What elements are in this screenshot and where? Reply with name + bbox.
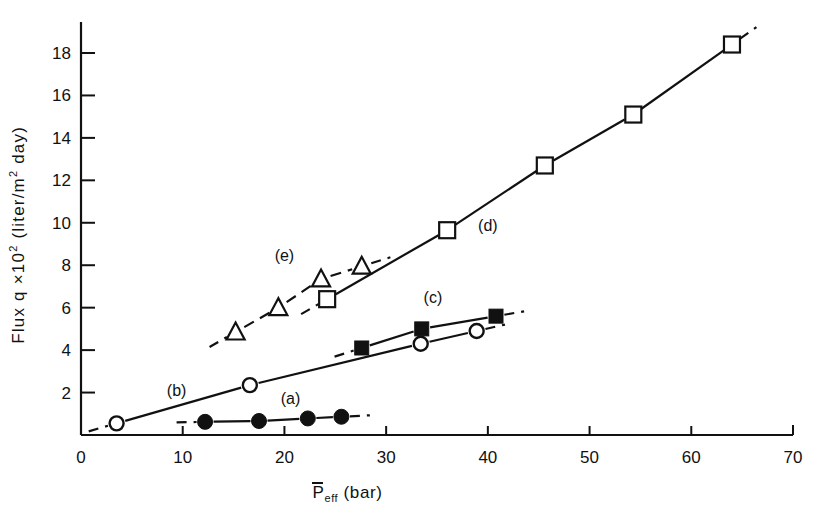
overbar-decoration — [312, 482, 323, 484]
data-point-d-0 — [319, 291, 335, 307]
y-tick-label-6: 6 — [62, 299, 71, 318]
y-tick-label-18: 18 — [52, 44, 71, 63]
figure-root: 01020304050607024681012141618 (a)(b)(c)(… — [0, 0, 825, 528]
series-c — [335, 309, 525, 356]
data-point-e-0 — [227, 323, 245, 340]
y-tick-label-4: 4 — [62, 341, 71, 360]
series-dashed-extension-end — [371, 257, 390, 263]
series-line-segment — [244, 313, 269, 327]
series-line-segment — [553, 120, 624, 161]
y-axis-label-prefix: Flux q ×10 — [9, 252, 28, 344]
y-tick-label-8: 8 — [62, 256, 71, 275]
x-tick-label-50: 50 — [580, 448, 599, 467]
data-point-b-3 — [470, 324, 484, 338]
y-tick-label-14: 14 — [52, 129, 71, 148]
series-line-segment — [287, 285, 313, 303]
axes — [81, 22, 793, 435]
series-dashed-extension-end — [485, 325, 505, 329]
series-annotation-a: (a) — [281, 390, 301, 407]
series-dashed-extension-start — [335, 351, 354, 357]
series-dashed-extension-end — [350, 415, 370, 416]
series-annotation-e: (e) — [275, 247, 295, 264]
x-axis-label-symbol: P — [312, 483, 324, 502]
data-series — [89, 27, 757, 431]
y-tick-label-10: 10 — [52, 214, 71, 233]
series-dashed-extension-start — [210, 337, 227, 347]
data-point-a-0 — [198, 414, 213, 429]
x-tick-label-10: 10 — [173, 448, 192, 467]
series-line-segment — [641, 50, 723, 108]
series-line-segment — [331, 269, 353, 276]
x-tick-label-30: 30 — [377, 448, 396, 467]
data-point-c-2 — [489, 309, 503, 323]
x-tick-label-0: 0 — [76, 448, 85, 467]
x-axis-label-subscript: eff — [324, 492, 338, 504]
x-axis-label-unit: (bar) — [344, 483, 383, 502]
chart-canvas: 01020304050607024681012141618 (a)(b)(c)(… — [0, 0, 825, 528]
series-b — [89, 324, 505, 431]
x-axis-label: Peff (bar) — [312, 483, 382, 504]
series-line-segment — [430, 333, 468, 342]
x-axis-label-letter: P — [312, 483, 324, 502]
series-line-segment — [214, 421, 251, 422]
series-line-segment — [316, 417, 333, 418]
data-point-a-3 — [334, 409, 349, 424]
series-dashed-extension-end — [504, 311, 524, 314]
data-point-a-2 — [300, 411, 315, 426]
data-point-a-1 — [252, 413, 267, 428]
y-axis-label-exponent: 2 — [7, 245, 19, 252]
series-line-segment — [259, 346, 412, 383]
series-annotation-c: (c) — [424, 289, 443, 306]
data-point-b-0 — [110, 416, 124, 430]
series-annotation-b: (b) — [167, 382, 187, 399]
series-line-segment — [336, 235, 439, 294]
series-annotation-d: (d) — [478, 217, 498, 234]
data-point-d-1 — [439, 222, 455, 238]
series-dashed-extension-start — [301, 304, 318, 314]
series-a — [177, 409, 370, 429]
x-tick-label-60: 60 — [682, 448, 701, 467]
series-line-segment — [370, 331, 414, 345]
data-point-c-0 — [355, 341, 369, 355]
y-axis-label-container: Flux q ×102 (liter/m2 day) — [0, 0, 38, 470]
series-e — [210, 257, 391, 347]
x-axis-label-container: Peff (bar) — [0, 483, 825, 504]
series-line-segment — [267, 419, 299, 421]
y-axis-label-unit-exponent: 2 — [7, 170, 19, 177]
y-tick-label-12: 12 — [52, 171, 71, 190]
data-point-b-2 — [414, 337, 428, 351]
data-point-d-2 — [537, 157, 553, 173]
y-tick-label-16: 16 — [52, 86, 71, 105]
x-tick-label-40: 40 — [478, 448, 497, 467]
series-dashed-extension-start — [89, 426, 108, 432]
series-labels: (a)(b)(c)(d)(e) — [167, 217, 498, 407]
series-dashed-extension-end — [740, 27, 756, 39]
data-point-d-4 — [724, 37, 740, 53]
x-tick-label-70: 70 — [784, 448, 803, 467]
data-point-e-1 — [269, 298, 287, 315]
y-axis-label-unit-tail: day) — [9, 126, 28, 170]
tick-labels: 01020304050607024681012141618 — [52, 44, 802, 467]
y-axis-label-unit: (liter/m — [9, 177, 28, 239]
y-tick-label-2: 2 — [62, 384, 71, 403]
y-axis-label: Flux q ×102 (liter/m2 day) — [7, 126, 29, 344]
data-point-e-3 — [353, 257, 371, 274]
x-tick-label-20: 20 — [275, 448, 294, 467]
data-point-b-1 — [243, 378, 257, 392]
data-point-e-2 — [312, 270, 330, 287]
data-point-c-1 — [415, 322, 429, 336]
data-point-d-3 — [625, 107, 641, 123]
